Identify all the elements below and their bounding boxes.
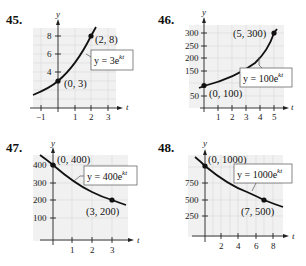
y-tick-label: 50 (190, 91, 200, 101)
data-point (109, 197, 114, 202)
y-axis-label: y (202, 138, 207, 148)
x-tick-label: 1 (216, 112, 221, 122)
y-tick-label: 100 (33, 213, 47, 223)
point-label: (0, 3) (64, 78, 87, 90)
x-tick-label: 3 (110, 245, 115, 255)
y-tick-label: 300 (33, 178, 47, 188)
x-tick-label: 2 (90, 245, 95, 255)
data-point (50, 162, 55, 167)
point-label: (0, 100) (209, 88, 243, 100)
x-tick-label: 1 (70, 245, 75, 255)
y-tick-label: 200 (185, 53, 199, 63)
x-tick-label: 6 (254, 241, 259, 251)
x-axis-arrow-icon (117, 106, 123, 110)
data-point (261, 197, 266, 202)
y-tick-label: 250 (185, 41, 199, 51)
x-tick-label: 5 (272, 112, 277, 122)
exercise-figure: 45. t y −1 1 2 3 4 6 8 (0, 3) (2, (0, 0, 306, 266)
x-axis-label: t (292, 231, 295, 241)
x-tick-label: −1 (36, 112, 46, 122)
y-tick-label: 750 (185, 178, 199, 188)
x-tick-label: 3 (106, 112, 111, 122)
y-axis-label: y (50, 138, 55, 148)
point-label: (5, 300) (233, 28, 267, 40)
equation: y = 400ekt (87, 169, 128, 182)
y-axis-arrow-icon (203, 149, 207, 155)
y-axis-arrow-icon (202, 17, 206, 23)
y-axis-label: y (201, 7, 206, 17)
y-axis-label: y (55, 9, 60, 19)
x-axis-arrow-icon (283, 106, 289, 110)
x-tick-label: 1 (73, 112, 78, 122)
x-axis-arrow-icon (128, 238, 134, 242)
graph-48: 48. t y 2 4 6 8 250 500 750 (0 (158, 138, 295, 251)
y-axis-arrow-icon (56, 19, 60, 25)
y-tick-label: 4 (47, 67, 52, 77)
problem-number-45: 45. (6, 12, 22, 27)
x-axis-arrow-icon (283, 234, 289, 238)
x-axis-label: t (137, 235, 140, 245)
x-tick-label: 4 (236, 241, 241, 251)
graph-46: 46. t y 1 2 3 4 5 50 150 200 (158, 7, 294, 122)
point-label: (3, 200) (86, 206, 120, 218)
equation: y = 1000ekt (237, 167, 283, 180)
y-tick-label: 6 (47, 49, 52, 59)
y-tick-label: 150 (185, 66, 199, 76)
y-tick-label: 500 (185, 195, 199, 205)
point-label: (7, 500) (241, 206, 275, 218)
y-tick-label: 250 (185, 211, 199, 221)
point-label: (2, 8) (95, 34, 118, 46)
data-point (55, 78, 60, 83)
equation: y = 100ekt (243, 71, 284, 84)
x-tick-label: 4 (258, 112, 263, 122)
data-point (201, 83, 206, 88)
problem-number-46: 46. (158, 12, 174, 27)
graph-45: 45. t y −1 1 2 3 4 6 8 (0, 3) (2, (6, 9, 133, 122)
data-point (271, 30, 276, 35)
point-label: (0, 400) (57, 154, 91, 166)
y-tick-label: 200 (33, 195, 47, 205)
graph-47: 47. t y 1 2 3 100 200 300 400 (0, 400) ( (6, 138, 140, 255)
y-tick-label: 400 (33, 160, 47, 170)
x-axis-label: t (291, 102, 294, 112)
y-tick-label: 300 (185, 28, 199, 38)
x-axis-label: t (126, 102, 129, 112)
data-point (202, 163, 207, 168)
x-tick-label: 8 (271, 241, 276, 251)
x-tick-label: 2 (89, 112, 94, 122)
problem-number-48: 48. (158, 140, 174, 155)
x-tick-label: 3 (244, 112, 249, 122)
problem-number-47: 47. (6, 140, 22, 155)
x-tick-label: 2 (219, 241, 224, 251)
data-point (88, 33, 93, 38)
x-tick-label: 2 (230, 112, 235, 122)
y-tick-label: 8 (47, 31, 52, 41)
